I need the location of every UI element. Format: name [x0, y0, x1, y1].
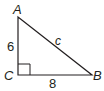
vertex-label-a: A	[12, 2, 22, 17]
right-triangle-diagram: A C B 6 8 c	[0, 0, 104, 91]
vertex-label-c: C	[4, 68, 14, 83]
side-label-ac: 6	[7, 39, 14, 54]
vertex-label-b: B	[93, 68, 102, 83]
right-angle-marker	[18, 64, 30, 75]
side-label-cb: 8	[49, 76, 56, 91]
side-label-ab: c	[55, 34, 61, 48]
